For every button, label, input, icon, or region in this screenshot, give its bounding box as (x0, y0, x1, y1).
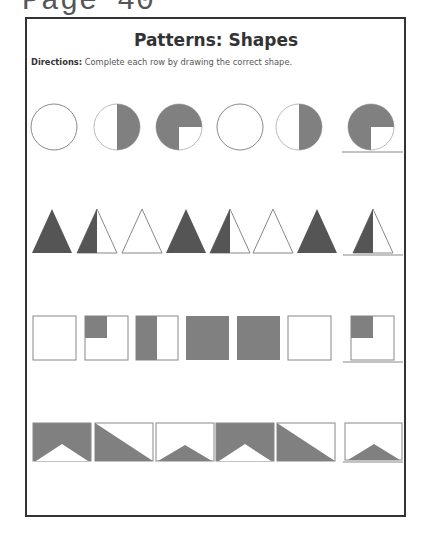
square-top-left-quarter (85, 316, 128, 360)
patterns-artwork (0, 0, 432, 545)
rect-diagonal-lower (277, 423, 335, 461)
square-full (186, 316, 229, 360)
circle-empty (217, 104, 263, 150)
triangle-left-half-answer (353, 209, 393, 253)
triangle-full (32, 209, 72, 253)
circle-empty (31, 104, 77, 150)
triangle-left-half (210, 209, 250, 253)
triangle-empty (253, 209, 293, 253)
circle-three-quarters (156, 104, 202, 150)
rect-notch-bottom (216, 423, 274, 461)
row-rectangles (33, 423, 403, 462)
triangle-empty (122, 209, 162, 253)
row-squares (33, 316, 403, 362)
rect-diagonal-lower (95, 423, 153, 461)
rect-notch-bottom (33, 423, 91, 461)
circle-three-quarters-answer (348, 104, 394, 150)
square-empty (288, 316, 331, 360)
rect-small-peak (156, 423, 214, 461)
square-empty (33, 316, 76, 360)
triangle-full (297, 209, 337, 253)
triangle-full (166, 209, 206, 253)
square-top-left-quarter-answer (351, 316, 394, 360)
square-left-half (136, 316, 178, 360)
rect-small-peak-answer (345, 423, 402, 460)
row-circles (31, 104, 403, 152)
circle-right-half (276, 104, 322, 150)
triangle-left-half (77, 209, 117, 253)
circle-right-half (94, 104, 140, 150)
row-triangles (32, 209, 403, 255)
square-full (237, 316, 280, 360)
